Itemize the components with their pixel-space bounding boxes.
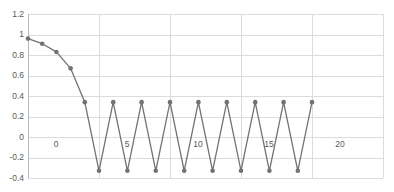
- y-axis-tick-label: -0.2: [9, 153, 24, 162]
- data-point-marker: [267, 169, 272, 174]
- x-axis-tick-label: 0: [54, 140, 59, 149]
- x-axis-tick-label: 20: [335, 140, 344, 149]
- x-axis-tick-label: 10: [193, 140, 202, 149]
- y-axis-tick-label: 0.4: [12, 92, 24, 101]
- data-point-marker: [97, 169, 102, 174]
- y-axis-tick-label: -0.4: [9, 174, 24, 183]
- y-axis-tick-label: 0.8: [12, 51, 24, 60]
- chart-container: -0.4-0.200.20.40.60.811.2 0510152025: [0, 0, 394, 192]
- x-axis-tick-labels: 0510152025: [28, 0, 383, 164]
- y-axis-tick-label: 0: [19, 133, 24, 142]
- grid-line-vertical: [383, 14, 384, 178]
- y-axis-tick-label: 1: [19, 30, 24, 39]
- x-axis-tick-label: 15: [264, 140, 273, 149]
- data-point-marker: [154, 169, 159, 174]
- data-point-marker: [210, 169, 215, 174]
- y-axis-tick-label: 0.6: [12, 71, 24, 80]
- data-point-marker: [296, 169, 301, 174]
- data-point-marker: [182, 169, 187, 174]
- data-point-marker: [125, 169, 130, 174]
- y-axis-tick-labels: -0.4-0.200.20.40.60.811.2: [0, 14, 24, 178]
- grid-line-horizontal: [28, 178, 383, 179]
- y-axis-tick-label: 0.2: [12, 112, 24, 121]
- y-axis-tick-label: 1.2: [12, 10, 24, 19]
- x-axis-tick-label: 5: [125, 140, 130, 149]
- data-point-marker: [239, 169, 244, 174]
